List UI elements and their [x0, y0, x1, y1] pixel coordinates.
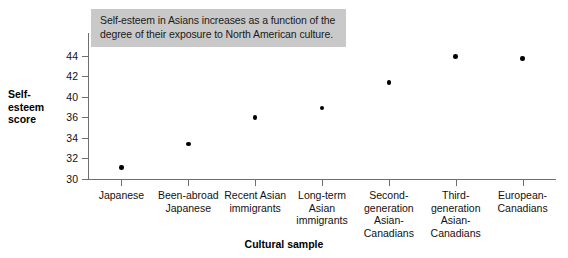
data-point	[387, 80, 392, 85]
data-point	[320, 106, 325, 111]
y-axis-tick-label: 30	[18, 173, 78, 185]
y-axis-tick-label: 34	[18, 132, 78, 144]
data-point	[186, 142, 191, 147]
y-axis-tick	[82, 56, 88, 57]
scatter-chart-figure: Self-esteem in Asians increases as a fun…	[0, 0, 568, 258]
annotation-line-1: Self-esteem in Asians increases as a fun…	[100, 14, 338, 28]
x-axis-tick	[523, 180, 524, 186]
y-axis-tick	[82, 138, 88, 139]
x-axis-tick	[188, 180, 189, 186]
data-point	[520, 56, 525, 61]
y-axis-tick-label: 40	[18, 91, 78, 103]
y-axis-tick-label: 32	[18, 152, 78, 164]
x-axis-tick-label-line: Canadians	[481, 202, 565, 215]
data-point	[119, 165, 124, 170]
x-axis-tick-label-line: European-	[481, 189, 565, 202]
y-axis-line	[88, 33, 89, 180]
y-axis-tick	[82, 97, 88, 98]
x-axis-tick	[255, 180, 256, 186]
annotation-line-2: degree of their exposure to North Americ…	[100, 28, 338, 42]
y-axis-tick	[82, 76, 88, 77]
chart-annotation-box: Self-esteem in Asians increases as a fun…	[91, 9, 346, 47]
y-axis-tick	[82, 158, 88, 159]
y-axis-tick	[82, 179, 88, 180]
x-axis-tick	[322, 180, 323, 186]
data-point	[253, 115, 258, 120]
x-axis-tick	[121, 180, 122, 186]
x-axis-tick	[456, 180, 457, 186]
y-axis-tick	[82, 117, 88, 118]
y-axis-tick-label: 44	[18, 50, 78, 62]
y-axis-tick-label: 42	[18, 70, 78, 82]
x-axis-tick-label-line: Asian-	[414, 214, 498, 227]
data-point	[453, 54, 458, 59]
x-axis-title: Cultural sample	[0, 238, 568, 250]
x-axis-tick	[389, 180, 390, 186]
y-axis-tick-label: 36	[18, 111, 78, 123]
x-axis-tick-label: European-Canadians	[481, 189, 565, 214]
